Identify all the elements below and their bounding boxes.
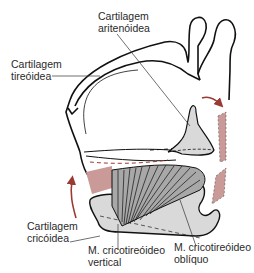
label-arytenoid-line1: Cartilagem [98, 10, 150, 22]
cricoid-rotation-arrow [71, 180, 76, 218]
label-thyroid-line2: tireóidea [11, 70, 62, 82]
label-ct-vertical: M. cricotireóideo vertical [88, 244, 165, 268]
label-cricoid-line1: Cartilagem [27, 220, 78, 232]
label-ct-vertical-line1: M. cricotireóideo [88, 244, 165, 256]
thyroid-tilt-arrow [202, 97, 220, 104]
posterior-ligament [212, 112, 226, 204]
label-ct-oblique-line2: oblíquo [174, 253, 251, 265]
arytenoid-cartilage [168, 106, 214, 155]
cricothyroid-membrane [86, 166, 112, 194]
label-thyroid-line1: Cartilagem [11, 58, 62, 70]
label-ct-vertical-line2: vertical [88, 256, 165, 268]
label-arytenoid: Cartilagem aritenóidea [98, 10, 150, 34]
label-thyroid: Cartilagem tireóidea [11, 58, 62, 82]
label-ct-oblique-line1: M. cricotireóideo [174, 241, 251, 253]
label-ct-oblique: M. cricotireóideo oblíquo [174, 241, 251, 265]
label-arytenoid-line2: aritenóidea [98, 22, 150, 34]
label-cricoid-line2: cricóidea [27, 232, 78, 244]
label-cricoid: Cartilagem cricóidea [27, 220, 78, 244]
